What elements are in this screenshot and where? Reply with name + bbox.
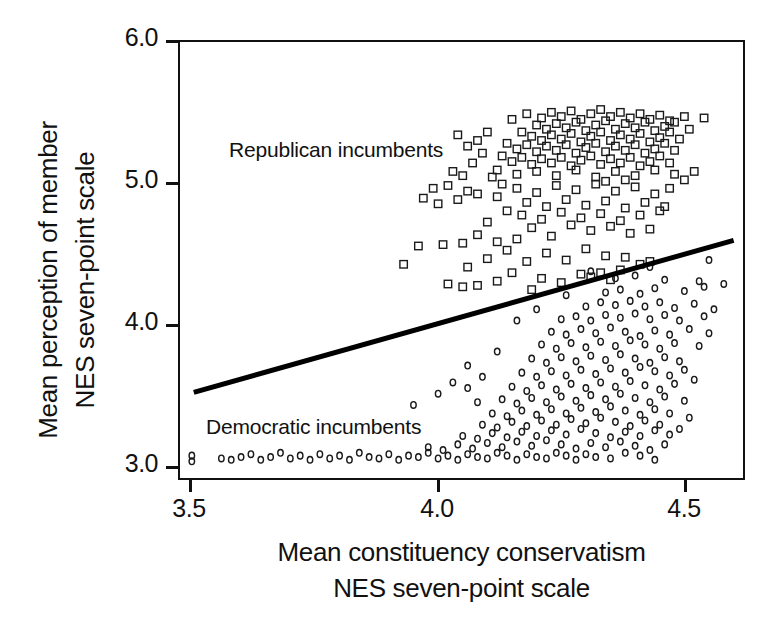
- data-point: [528, 133, 535, 140]
- data-point: [583, 385, 588, 392]
- data-point: [445, 452, 450, 459]
- data-point: [498, 180, 505, 187]
- data-point: [642, 303, 647, 310]
- data-point: [602, 197, 609, 204]
- data-point: [652, 285, 657, 292]
- data-point: [597, 210, 604, 217]
- data-point: [435, 455, 440, 462]
- x-axis-title-line-2: NES seven-point scale: [178, 570, 745, 606]
- data-point: [559, 354, 564, 361]
- data-point: [524, 423, 529, 430]
- data-point: [554, 450, 559, 457]
- data-point: [672, 305, 677, 312]
- data-point: [493, 166, 500, 173]
- data-point: [651, 190, 658, 197]
- data-point: [637, 412, 642, 419]
- data-point: [568, 381, 573, 388]
- data-point: [503, 207, 510, 214]
- data-point: [440, 447, 445, 454]
- data-point: [593, 371, 598, 378]
- data-point: [503, 140, 510, 147]
- data-point: [701, 313, 706, 320]
- data-point: [480, 374, 485, 381]
- data-point: [558, 154, 565, 161]
- data-point: [538, 275, 545, 282]
- data-point: [528, 286, 535, 293]
- x-tick-label-3-5: 3.5: [158, 494, 220, 523]
- data-point: [337, 452, 342, 459]
- data-point: [529, 395, 534, 402]
- x-tick-mark-4-0: [437, 480, 440, 492]
- data-point: [603, 444, 608, 451]
- data-point: [429, 185, 436, 192]
- data-point: [603, 312, 608, 319]
- data-point: [593, 454, 598, 461]
- data-point: [632, 272, 637, 279]
- data-point: [583, 303, 588, 310]
- data-point: [509, 383, 514, 390]
- data-point: [593, 430, 598, 437]
- data-point: [479, 149, 486, 156]
- data-point: [539, 417, 544, 424]
- y-tick-label-6: 6.0: [96, 23, 158, 52]
- data-point: [454, 131, 461, 138]
- data-point: [676, 135, 683, 142]
- data-point: [434, 200, 441, 207]
- annotation-democratic-incumbents: Democratic incumbents: [206, 415, 421, 439]
- data-point: [641, 149, 648, 156]
- data-point: [538, 114, 545, 121]
- data-point: [662, 354, 667, 361]
- data-point: [667, 410, 672, 417]
- data-point: [490, 410, 495, 417]
- data-point: [534, 374, 539, 381]
- data-point: [485, 455, 490, 462]
- data-point: [455, 441, 460, 448]
- data-point: [258, 457, 263, 464]
- data-point: [297, 452, 302, 459]
- data-point: [533, 189, 540, 196]
- data-point: [583, 344, 588, 351]
- data-point: [490, 430, 495, 437]
- data-point: [613, 383, 618, 390]
- data-point: [513, 171, 520, 178]
- data-point: [563, 431, 568, 438]
- data-point: [602, 148, 609, 155]
- data-point: [444, 280, 451, 287]
- data-point: [613, 419, 618, 426]
- data-point: [682, 288, 687, 295]
- data-point: [567, 107, 574, 114]
- data-point: [465, 451, 470, 458]
- data-point: [598, 414, 603, 421]
- data-point: [480, 421, 485, 428]
- data-point: [577, 270, 584, 277]
- data-point: [681, 113, 688, 120]
- data-point: [415, 242, 422, 249]
- data-point: [578, 326, 583, 333]
- data-point: [646, 116, 653, 123]
- data-point: [593, 409, 598, 416]
- data-point: [686, 126, 693, 133]
- data-point: [602, 252, 609, 259]
- data-point: [519, 428, 524, 435]
- data-point: [577, 156, 584, 163]
- data-point: [627, 337, 632, 344]
- data-point: [612, 187, 619, 194]
- data-point: [411, 402, 416, 409]
- data-point: [651, 145, 658, 152]
- data-point: [519, 369, 524, 376]
- data-point: [588, 317, 593, 324]
- data-point: [657, 421, 662, 428]
- data-point: [623, 329, 628, 336]
- data-point: [513, 185, 520, 192]
- data-point: [652, 406, 657, 413]
- y-tick-mark-6: [166, 40, 178, 43]
- data-point: [444, 182, 451, 189]
- data-point: [646, 158, 653, 165]
- data-point: [647, 447, 652, 454]
- data-point: [608, 403, 613, 410]
- data-point: [493, 277, 500, 284]
- data-point: [228, 457, 233, 464]
- data-point: [667, 331, 672, 338]
- data-point: [508, 116, 515, 123]
- x-axis-title-line-1: Mean constituency conservatism: [178, 534, 745, 570]
